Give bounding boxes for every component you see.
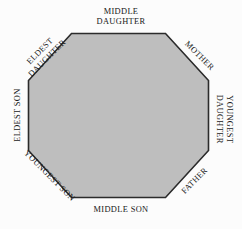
label-middle-son: MIDDLE SON bbox=[0, 205, 242, 215]
octagon-shape bbox=[0, 0, 242, 229]
label-middle-daughter-line1: MIDDLE bbox=[0, 7, 242, 17]
label-middle-daughter-line2: DAUGHTER bbox=[0, 17, 242, 27]
label-middle-son-line1: MIDDLE SON bbox=[0, 205, 242, 215]
label-youngest-daughter-line1: YOUNGEST bbox=[224, 69, 234, 169]
octagon-seating-diagram: MIDDLE DAUGHTER MOTHER YOUNGEST DAUGHTER… bbox=[0, 0, 242, 229]
label-middle-daughter: MIDDLE DAUGHTER bbox=[0, 7, 242, 27]
